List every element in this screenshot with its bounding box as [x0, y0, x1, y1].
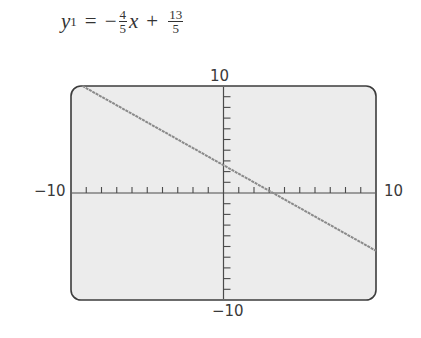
y-max-label: 10: [210, 67, 229, 85]
y-min-label: −10: [212, 302, 244, 320]
x-max-label: 10: [384, 182, 403, 200]
x-min-label: −10: [34, 182, 66, 200]
graph-screen: [0, 0, 421, 338]
